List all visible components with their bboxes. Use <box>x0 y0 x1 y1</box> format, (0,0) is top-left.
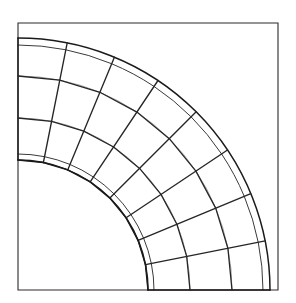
radial-divider-3 <box>126 150 227 218</box>
radial-divider-6 <box>68 57 115 170</box>
radial-divider-1 <box>146 241 266 265</box>
radial-divider-7 <box>43 43 67 163</box>
radial-divider-5 <box>90 81 158 182</box>
mesh-figure <box>0 0 296 303</box>
figure-page <box>0 0 296 303</box>
radial-divider-2 <box>138 194 251 241</box>
mesh-svg <box>0 0 296 303</box>
